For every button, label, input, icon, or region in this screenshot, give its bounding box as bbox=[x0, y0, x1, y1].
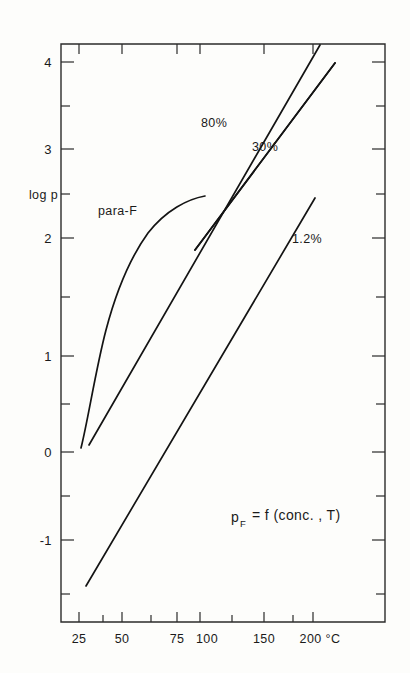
x-tick-label-100: 100 bbox=[196, 632, 218, 646]
x-tick-labels: 25 50 75 100 150 200 °C bbox=[72, 632, 341, 646]
series-annotation-1-2: 1.2% bbox=[292, 232, 322, 246]
x-tick-label-75: 75 bbox=[170, 632, 185, 646]
y-tick-label-neg1: -1 bbox=[40, 533, 52, 548]
series-annotation-30: 30% bbox=[252, 140, 278, 154]
equation-annotation: p F = f (conc. , T) bbox=[231, 507, 341, 529]
y-axis-title: log p bbox=[29, 188, 58, 202]
y-axis-ticks-left bbox=[61, 62, 74, 594]
equation-symbol: p bbox=[231, 509, 239, 525]
series-annotation-80: 80% bbox=[201, 116, 227, 130]
y-axis-ticks-right bbox=[372, 62, 385, 594]
y-tick-labels: 4 3 log p 2 1 0 -1 bbox=[29, 55, 58, 548]
series-annotations: 80% 30% 1.2% para-F bbox=[98, 116, 322, 246]
figure-root: 25 50 75 100 150 200 °C 4 3 log p 2 1 0 … bbox=[0, 0, 410, 673]
y-tick-label-1: 1 bbox=[44, 349, 52, 364]
x-tick-label-50: 50 bbox=[115, 632, 130, 646]
plot-frame bbox=[61, 44, 385, 622]
x-tick-label-25: 25 bbox=[72, 632, 87, 646]
equation-subscript: F bbox=[240, 518, 246, 529]
x-tick-label-150: 150 bbox=[253, 632, 275, 646]
x-axis-ticks-bottom bbox=[79, 612, 313, 622]
y-tick-label-2: 2 bbox=[44, 231, 52, 246]
y-tick-label-4: 4 bbox=[44, 55, 52, 70]
chart-canvas: 25 50 75 100 150 200 °C 4 3 log p 2 1 0 … bbox=[0, 0, 410, 673]
y-tick-label-3: 3 bbox=[44, 142, 52, 157]
y-tick-label-0: 0 bbox=[44, 445, 52, 460]
series-annotation-para-f: para-F bbox=[98, 204, 137, 218]
x-tick-label-200: 200 °C bbox=[300, 632, 341, 646]
equation-expression: = f (conc. , T) bbox=[252, 507, 341, 523]
series-curve-para-f bbox=[81, 196, 205, 448]
series-line-30-upper bbox=[195, 63, 335, 250]
x-axis-ticks-top bbox=[79, 44, 313, 54]
